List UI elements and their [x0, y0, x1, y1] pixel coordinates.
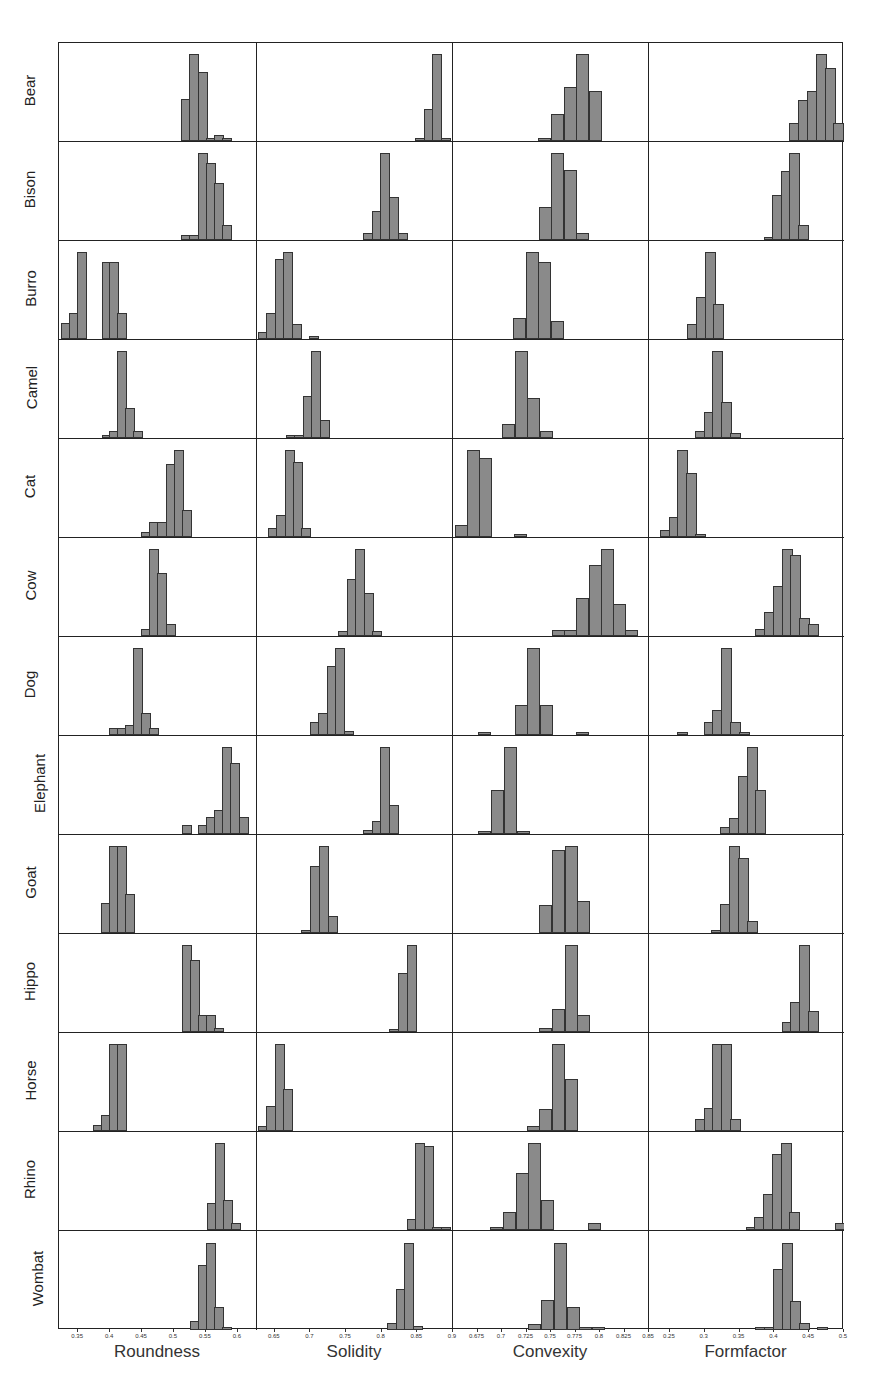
histogram-bar: [540, 705, 553, 735]
histogram-bar: [222, 1327, 232, 1330]
histogram-rhino-solidity: [257, 1132, 453, 1231]
histogram-cow-formfactor: [649, 538, 844, 637]
x-tick-mark: [345, 1329, 346, 1332]
histogram-bar: [588, 1223, 601, 1230]
x-tick-label: 0.8: [595, 1333, 603, 1339]
histogram-bar: [808, 1011, 819, 1032]
histogram-bar: [513, 318, 526, 339]
histogram-bar: [686, 473, 697, 537]
histogram-bar: [515, 705, 528, 735]
x-tick-label: 0.55: [199, 1333, 211, 1339]
x-tick-label: 0.75: [339, 1333, 351, 1339]
row-label-text: Camel: [23, 365, 40, 408]
histogram-burro-roundness: [59, 241, 257, 340]
histogram-camel-formfactor: [649, 340, 844, 439]
histogram-goat-convexity: [453, 835, 649, 934]
histogram-bar: [516, 1173, 529, 1230]
histogram-goat-formfactor: [649, 835, 844, 934]
x-tick-label: 0.45: [802, 1333, 814, 1339]
histogram-bar: [478, 732, 491, 735]
row-label-text: Bison: [22, 170, 39, 208]
x-tick-label: 0.35: [733, 1333, 745, 1339]
x-tick-mark: [237, 1329, 238, 1332]
x-tick-mark: [739, 1329, 740, 1332]
x-tick-label: 0.725: [518, 1333, 533, 1339]
x-tick-mark: [477, 1329, 478, 1332]
histogram-bar: [527, 648, 540, 735]
histogram-bar: [833, 123, 844, 141]
row-label-text: Bear: [22, 74, 39, 106]
histogram-bar: [789, 1212, 800, 1230]
histogram-bar: [541, 1200, 554, 1230]
x-tick-mark: [843, 1329, 844, 1332]
histogram-wombat-roundness: [59, 1231, 257, 1330]
histogram-bar: [539, 905, 552, 933]
x-tick-label: 0.25: [663, 1333, 675, 1339]
histogram-bar: [335, 648, 345, 735]
histogram-hippo-formfactor: [649, 934, 844, 1033]
row-label-text: Rhino: [21, 1159, 38, 1198]
histogram-bar: [564, 87, 577, 141]
histogram-bar: [577, 1015, 590, 1032]
row-label-text: Elephant: [31, 753, 48, 812]
histogram-bar: [490, 1227, 503, 1230]
histogram-bar: [441, 1227, 451, 1230]
histogram-bar: [817, 1327, 828, 1330]
histogram-dog-solidity: [257, 637, 453, 736]
histogram-bar: [292, 324, 302, 339]
histogram-bar: [117, 1044, 127, 1131]
histogram-bear-solidity: [257, 43, 453, 142]
row-label-text: Cat: [22, 474, 39, 497]
histogram-bar: [527, 398, 540, 438]
histogram-cow-solidity: [257, 538, 453, 637]
histogram-burro-formfactor: [649, 241, 844, 340]
histogram-bar: [239, 817, 249, 834]
x-tick-label: 0.775: [567, 1333, 582, 1339]
histogram-bar: [502, 424, 515, 438]
histogram-hippo-convexity: [453, 934, 649, 1033]
histogram-bear-convexity: [453, 43, 649, 142]
x-tick-mark: [550, 1329, 551, 1332]
x-axis-label-convexity: Convexity: [513, 1342, 588, 1362]
histogram-bar: [564, 630, 577, 636]
histogram-hippo-roundness: [59, 934, 257, 1033]
histogram-bar: [214, 1028, 224, 1032]
x-tick-label: 0.45: [135, 1333, 147, 1339]
histogram-rhino-formfactor: [649, 1132, 844, 1231]
histogram-horse-formfactor: [649, 1033, 844, 1132]
x-tick-mark: [274, 1329, 275, 1332]
x-axis-label-formfactor: Formfactor: [704, 1342, 786, 1362]
histogram-bar: [538, 262, 551, 339]
x-tick-label: 0.675: [469, 1333, 484, 1339]
histogram-cat-solidity: [257, 439, 453, 538]
x-tick-label: 0.5: [169, 1333, 177, 1339]
histogram-bar: [514, 534, 527, 537]
histogram-cat-formfactor: [649, 439, 844, 538]
x-tick-label: 0.3: [700, 1333, 708, 1339]
histogram-cow-convexity: [453, 538, 649, 637]
histogram-rhino-convexity: [453, 1132, 649, 1231]
x-tick-mark: [648, 1329, 649, 1332]
x-tick-mark: [599, 1329, 600, 1332]
histogram-bar: [539, 1028, 552, 1032]
histogram-bar: [389, 805, 399, 834]
histogram-bar: [552, 1009, 565, 1032]
row-label-cat: Cat: [10, 478, 50, 498]
x-tick-mark: [309, 1329, 310, 1332]
panel-grid: [58, 42, 843, 1329]
histogram-dog-convexity: [453, 637, 649, 736]
histogram-bar: [344, 731, 354, 735]
row-label-text: Hippo: [21, 961, 38, 1000]
x-tick-mark: [526, 1329, 527, 1332]
histogram-bar: [579, 1327, 592, 1330]
histogram-dog-roundness: [59, 637, 257, 736]
histogram-bar: [222, 225, 232, 240]
histogram-bar: [601, 549, 614, 636]
x-tick-mark: [669, 1329, 670, 1332]
histogram-bar: [301, 528, 311, 537]
histogram-bar: [713, 304, 724, 339]
x-tick-label: 0.4: [769, 1333, 777, 1339]
histogram-bar: [695, 534, 706, 537]
histogram-bar: [565, 1079, 578, 1131]
x-tick-mark: [501, 1329, 502, 1332]
